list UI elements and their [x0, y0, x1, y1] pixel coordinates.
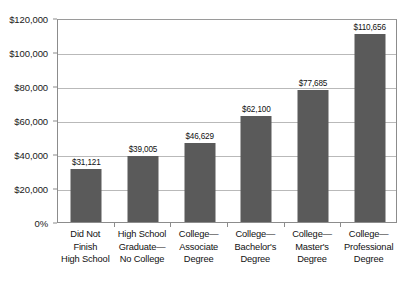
- x-axis-category-label: Did NotFinishHigh School: [57, 228, 114, 266]
- y-axis-tick-label: $100,000: [9, 48, 48, 59]
- y-axis-tick-label: $80,000: [14, 82, 48, 93]
- x-axis-tick-mark: [114, 223, 115, 227]
- x-axis-category-label: College—AssociateDegree: [170, 228, 227, 266]
- x-axis-tick-mark: [284, 223, 285, 227]
- y-axis-tick-label: $120,000: [9, 14, 48, 25]
- x-axis-category-line: Did Not: [57, 228, 114, 241]
- bar-chart: $120,000$100,000$80,000$60,000$40,000$20…: [0, 0, 411, 287]
- x-axis-category-line: Associate: [170, 241, 227, 254]
- bar: [184, 143, 215, 222]
- y-axis-tick-label: $40,000: [14, 150, 48, 161]
- x-axis-category-line: Finish: [57, 241, 114, 254]
- y-axis-tick-label: $60,000: [14, 116, 48, 127]
- bar-group: $77,685: [285, 20, 342, 222]
- bar-group: $31,121: [58, 20, 115, 222]
- x-axis-category-line: College—: [284, 228, 341, 241]
- x-axis-category-line: Graduate—: [114, 241, 171, 254]
- x-axis-category-label: College—ProfessionalDegree: [340, 228, 397, 266]
- x-axis-tick-mark: [170, 223, 171, 227]
- bar-value-label: $31,121: [72, 158, 101, 167]
- bar: [127, 156, 158, 222]
- x-axis-category-line: College—: [170, 228, 227, 241]
- x-axis-category-line: Master's: [284, 241, 341, 254]
- bar: [71, 169, 102, 222]
- x-axis-category-line: Professional: [340, 241, 397, 254]
- y-axis-tick-label: 0%: [34, 218, 48, 229]
- x-axis-tick-mark: [340, 223, 341, 227]
- x-axis-category-line: Degree: [227, 253, 284, 266]
- bar-group: $46,629: [171, 20, 228, 222]
- bar-group: $110,656: [341, 20, 398, 222]
- bar-value-label: $110,656: [353, 23, 385, 32]
- x-axis-category-label: College—Master'sDegree: [284, 228, 341, 266]
- x-axis-category-line: Bachelor's: [227, 241, 284, 254]
- bar: [354, 34, 385, 222]
- bar-value-label: $46,629: [185, 132, 214, 141]
- bar-value-label: $39,005: [129, 145, 158, 154]
- bar: [241, 116, 272, 222]
- y-axis-tick-label: $20,000: [14, 184, 48, 195]
- bar-value-label: $77,685: [299, 79, 328, 88]
- x-axis-category-line: College—: [227, 228, 284, 241]
- bar-value-label: $62,100: [242, 105, 271, 114]
- bar: [297, 90, 328, 222]
- x-axis-category-line: High School: [114, 228, 171, 241]
- x-axis-tick-mark: [227, 223, 228, 227]
- x-axis-category-line: College—: [340, 228, 397, 241]
- plot-area: $31,121$39,005$46,629$62,100$77,685$110,…: [57, 19, 397, 223]
- x-axis-category-line: No College: [114, 253, 171, 266]
- x-axis-category-line: Degree: [284, 253, 341, 266]
- bar-group: $39,005: [115, 20, 172, 222]
- x-axis-category-label: College—Bachelor'sDegree: [227, 228, 284, 266]
- x-axis-category-line: Degree: [170, 253, 227, 266]
- bar-group: $62,100: [228, 20, 285, 222]
- x-axis-category-label: High SchoolGraduate—No College: [114, 228, 171, 266]
- y-axis: $120,000$100,000$80,000$60,000$40,000$20…: [0, 0, 57, 287]
- x-axis-category-line: Degree: [340, 253, 397, 266]
- x-axis-category-line: High School: [57, 253, 114, 266]
- x-axis: Did NotFinishHigh SchoolHigh SchoolGradu…: [57, 228, 397, 287]
